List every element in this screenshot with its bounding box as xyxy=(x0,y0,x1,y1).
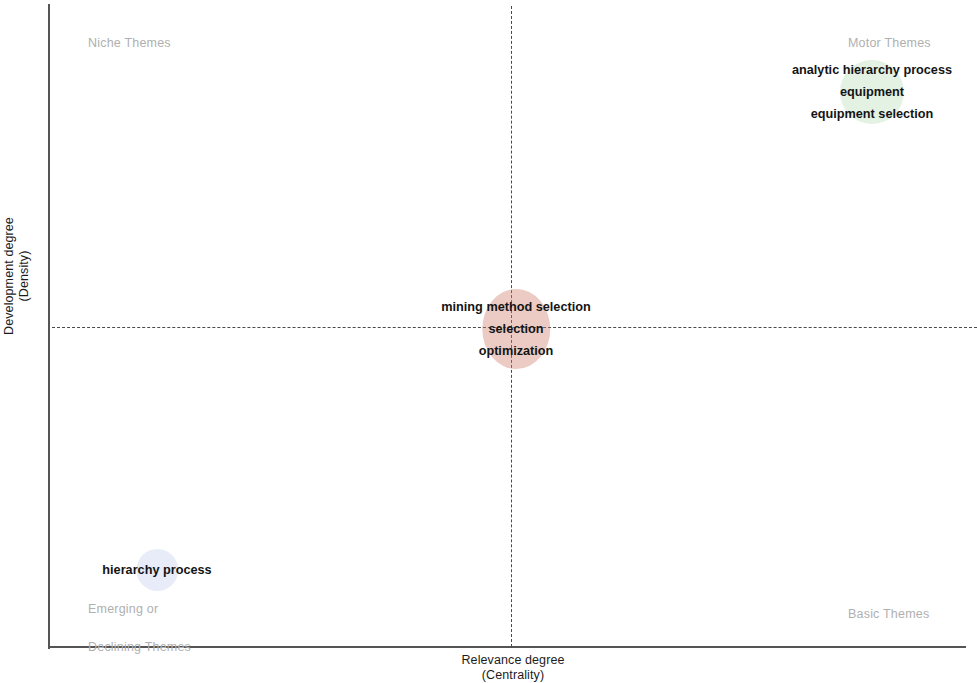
cluster-terms-core: mining method selection selection optimi… xyxy=(441,296,590,362)
quadrant-label-basic-themes: Basic Themes xyxy=(848,605,929,624)
cluster-terms-motor: analytic hierarchy process equipment equ… xyxy=(792,59,952,125)
quadrant-label-motor-themes: Motor Themes xyxy=(848,34,931,53)
y-axis-title-line2: (Density) xyxy=(17,251,31,302)
theme-cluster-emerging: hierarchy process xyxy=(102,559,211,581)
quadrant-label-niche-themes: Niche Themes xyxy=(88,34,171,53)
y-axis-line xyxy=(48,4,50,649)
y-axis-title-line1: Development degree xyxy=(2,217,16,335)
cluster-terms-emerging: hierarchy process xyxy=(102,559,211,581)
cluster-term: optimization xyxy=(441,340,590,362)
cluster-term: equipment selection xyxy=(792,103,952,125)
cluster-term: selection xyxy=(441,318,590,340)
theme-cluster-motor: analytic hierarchy process equipment equ… xyxy=(792,59,952,125)
quadrant-label-emerging-line2: Declining Themes xyxy=(88,640,191,654)
cluster-term: hierarchy process xyxy=(102,559,211,581)
x-axis-title: Relevance degree (Centrality) xyxy=(388,653,638,683)
cluster-term: equipment xyxy=(792,81,952,103)
y-axis-title: Development degree (Density) xyxy=(2,196,42,356)
theme-cluster-core: mining method selection selection optimi… xyxy=(441,296,590,362)
thematic-map-chart: Development degree (Density) Relevance d… xyxy=(0,0,977,683)
x-axis-title-line1: Relevance degree xyxy=(461,653,564,667)
quadrant-label-emerging-line1: Emerging or xyxy=(88,602,158,616)
quadrant-label-emerging-themes: Emerging or Declining Themes xyxy=(88,581,191,657)
x-axis-title-line2: (Centrality) xyxy=(482,668,544,682)
cluster-term: analytic hierarchy process xyxy=(792,59,952,81)
cluster-term: mining method selection xyxy=(441,296,590,318)
